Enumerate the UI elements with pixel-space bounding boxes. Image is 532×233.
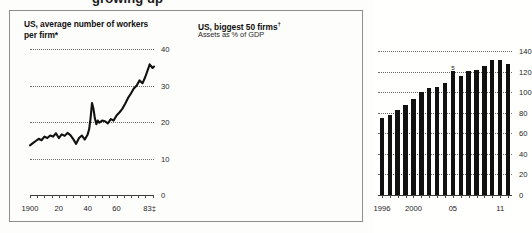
left-chart-title: US, average number of workers per firm* [24, 19, 186, 40]
left-x-tick [37, 195, 38, 198]
right-y-tick-label: 100 [519, 88, 532, 97]
right-x-tick [382, 195, 383, 198]
left-y-tick-label: 20 [161, 118, 169, 127]
left-x-tick-label: 20 [55, 204, 63, 213]
left-x-tick [52, 195, 53, 198]
left-x-tick-label: 40 [83, 204, 91, 213]
right-x-tick [453, 195, 454, 198]
left-x-tick-label: 60 [112, 204, 120, 213]
right-x-tick-label: 05 [449, 204, 457, 213]
chart-frame: US, average number of workers per firm* … [9, 10, 363, 222]
left-y-tick-label: 10 [161, 154, 169, 163]
left-x-tick [138, 195, 139, 198]
left-x-tick [59, 195, 60, 198]
left-x-tick [95, 195, 96, 198]
right-x-tick [500, 195, 501, 198]
left-line-path [30, 64, 154, 145]
left-x-tick [153, 195, 154, 198]
left-x-tick [30, 195, 31, 198]
bar [435, 87, 439, 195]
right-x-tick-label: 2000 [405, 204, 422, 213]
left-chart-title-line1: US, average number of workers [24, 19, 148, 29]
right-y-tick-label: 120 [519, 67, 532, 76]
right-x-tick [508, 195, 509, 198]
left-axis-baseline [30, 195, 154, 196]
right-x-tick [492, 195, 493, 198]
right-x-tick [469, 195, 470, 198]
right-x-tick-label: 1996 [373, 204, 390, 213]
left-y-tick-label: 40 [161, 45, 169, 54]
bar [490, 60, 494, 195]
left-x-tick-label: 83‡ [143, 204, 156, 213]
left-chart-panel: US, average number of workers per firm* … [10, 11, 188, 223]
right-x-tick [413, 195, 414, 198]
bar [419, 92, 423, 195]
cropped-headline-strip: growing up [0, 0, 374, 8]
right-x-tick [445, 195, 446, 198]
bar [498, 60, 502, 195]
bar [380, 118, 384, 195]
left-x-tick [80, 195, 81, 198]
left-x-tick [44, 195, 45, 198]
bar [443, 83, 447, 195]
bar [395, 110, 399, 195]
bar [482, 66, 486, 195]
left-line-series [30, 49, 154, 195]
right-x-tick [390, 195, 391, 198]
left-x-tick [117, 195, 118, 198]
left-x-tick [88, 195, 89, 198]
left-x-tick [124, 195, 125, 198]
left-x-tick [102, 195, 103, 198]
bar [403, 105, 407, 196]
right-y-tick-label: 0 [519, 191, 523, 200]
left-x-tick [66, 195, 67, 198]
right-gridline [378, 51, 512, 52]
right-y-tick-label: 40 [519, 149, 527, 158]
left-x-tick [145, 195, 146, 198]
left-x-tick [73, 195, 74, 198]
left-x-tick-label: 1900 [22, 204, 39, 213]
right-chart-subtitle: Assets as % of GDP [198, 30, 264, 39]
bar [388, 115, 392, 195]
bar [466, 71, 470, 195]
bar [459, 76, 463, 195]
right-x-tick-label: 11 [496, 204, 504, 213]
left-chart-title-line2: per firm* [24, 30, 58, 40]
right-y-tick-label: 80 [519, 108, 527, 117]
right-x-tick [477, 195, 478, 198]
bar-annotation: 5 [451, 64, 454, 71]
right-x-tick [484, 195, 485, 198]
right-y-tick-label: 140 [519, 47, 532, 56]
bar [411, 99, 415, 195]
left-plot-area: 010203040 190020406083‡ [30, 49, 154, 195]
cropped-headline-text: growing up [92, 0, 163, 6]
right-y-tick-label: 20 [519, 170, 527, 179]
bar [474, 70, 478, 195]
right-x-tick [398, 195, 399, 198]
right-chart-title-footnote: † [278, 21, 281, 27]
left-x-tick [109, 195, 110, 198]
right-x-tick [406, 195, 407, 198]
right-x-tick [429, 195, 430, 198]
bar [427, 88, 431, 195]
left-x-tick [131, 195, 132, 198]
left-y-tick-label: 0 [161, 191, 165, 200]
right-y-tick-label: 60 [519, 129, 527, 138]
right-x-tick [421, 195, 422, 198]
left-y-tick-label: 30 [161, 81, 169, 90]
right-chart-panel: US, biggest 50 firms† Assets as % of GDP… [188, 11, 364, 223]
bar [451, 71, 455, 195]
right-x-tick [437, 195, 438, 198]
bar [506, 64, 510, 195]
right-x-tick [461, 195, 462, 198]
right-plot-area: 020406080100120140 5 199620000511 [378, 51, 512, 195]
